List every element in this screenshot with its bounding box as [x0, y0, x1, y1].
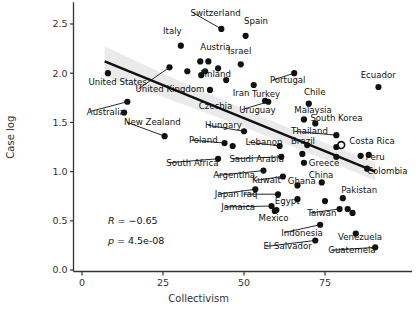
scatter-plot-figure: United StatesAustraliaNew ZealandUnited …	[0, 0, 419, 311]
point-label: Iran	[233, 88, 250, 98]
point-label: South Korea	[310, 113, 362, 123]
data-point	[184, 68, 190, 74]
annotation-pvalue: p = 4.5e-08	[107, 235, 165, 246]
data-point	[299, 151, 305, 157]
point-label: Brazil	[291, 136, 315, 146]
point-label: Austria	[200, 42, 230, 52]
data-point	[319, 179, 325, 185]
point-label: United Kingdom	[135, 84, 204, 94]
annotation-value: = 4.5e-08	[114, 235, 164, 246]
data-point	[230, 143, 236, 149]
annotation-correlation: R = −0.65	[108, 215, 158, 226]
point-label: Ecuador	[361, 70, 397, 80]
chart-canvas: United StatesAustraliaNew ZealandUnited …	[0, 0, 419, 311]
data-point	[340, 195, 346, 201]
data-point	[375, 84, 381, 90]
point-label: Pakistan	[341, 185, 377, 195]
data-point	[301, 160, 307, 166]
point-label: Japan	[214, 189, 239, 199]
data-point	[178, 43, 184, 49]
data-point	[243, 33, 249, 39]
data-point	[349, 210, 355, 216]
data-point	[207, 87, 213, 93]
x-tick-label: 75	[319, 277, 331, 288]
data-point	[238, 61, 244, 67]
data-point	[333, 144, 339, 150]
point-label: Egypt	[275, 196, 300, 206]
point-label: Australia	[87, 107, 125, 117]
x-axis-title: Collectivism	[168, 293, 229, 304]
y-tick-label: 0.5	[52, 215, 67, 226]
data-point	[205, 58, 211, 64]
y-tick-label: 1.5	[52, 117, 67, 128]
point-label: Greece	[309, 158, 340, 168]
point-label: Uruguay	[239, 105, 276, 115]
y-tick-label: 0.0	[52, 264, 67, 275]
point-label: Peru	[366, 152, 385, 162]
annotation-symbol: p	[107, 235, 114, 246]
point-label: Switzerland	[191, 8, 241, 18]
point-label: Italy	[163, 26, 182, 36]
y-tick-label: 2.5	[52, 18, 67, 29]
point-label: Chile	[304, 87, 326, 97]
data-point	[322, 198, 328, 204]
point-label: Czechia	[199, 101, 233, 111]
point-label: Israel	[228, 46, 252, 56]
point-label: Mexico	[259, 213, 289, 223]
data-point	[345, 206, 351, 212]
point-label: New Zealand	[124, 117, 180, 127]
y-tick-label: 1.0	[52, 166, 67, 177]
data-point	[105, 70, 111, 76]
y-tick-label: 2.0	[52, 68, 67, 79]
point-label: Costa Rica	[349, 136, 394, 146]
point-label: Colombia	[367, 166, 407, 176]
data-point	[358, 153, 364, 159]
annotation-value: = −0.65	[115, 215, 158, 226]
point-label: El Salvador	[263, 241, 312, 251]
point-label: China	[309, 170, 334, 180]
data-point	[197, 58, 203, 64]
x-tick-label: 25	[157, 277, 169, 288]
point-label: Finland	[200, 69, 231, 79]
x-tick-label: 50	[238, 277, 250, 288]
data-point	[301, 116, 307, 122]
x-tick-label: 0	[79, 277, 85, 288]
y-axis-title: Case log	[5, 116, 16, 159]
point-label: Turkey	[251, 89, 280, 99]
point-label: Portugal	[270, 75, 306, 85]
data-point	[251, 82, 257, 88]
point-label: Venezuela	[338, 232, 382, 242]
point-label: Spain	[244, 16, 268, 26]
